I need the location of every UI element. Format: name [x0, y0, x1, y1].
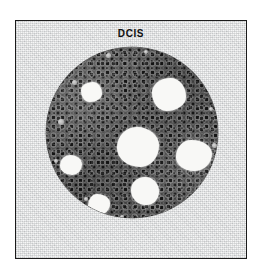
figure-root: DCIS	[0, 0, 261, 268]
rim-cell-1	[58, 119, 64, 125]
rim-cell-11	[84, 197, 88, 201]
rim-cell-6	[209, 107, 213, 111]
lumen-left	[60, 155, 82, 175]
rim-cell-5	[192, 59, 196, 63]
rim-cell-8	[198, 185, 202, 189]
rim-cell-10	[120, 215, 124, 218]
lumen-upper-right	[152, 78, 186, 111]
rim-cell-12	[54, 159, 58, 163]
rim-cell-2	[72, 80, 77, 85]
lumen-upper-left	[81, 82, 102, 102]
duct-cross-section	[46, 47, 218, 218]
lumen-center	[117, 127, 159, 167]
rim-cell-4	[144, 50, 148, 54]
page-title: DCIS	[16, 28, 246, 39]
lumen-lower-mid	[131, 177, 159, 205]
rim-cell-9	[164, 210, 169, 215]
rim-cell-7	[212, 143, 217, 148]
figure-panel: DCIS	[15, 20, 247, 259]
rim-cell-3	[106, 53, 111, 58]
